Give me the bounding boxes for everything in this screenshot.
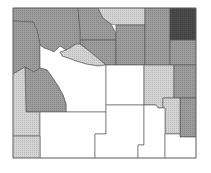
county-laramie — [165, 134, 196, 158]
county-texture — [174, 65, 196, 98]
wyoming-county-map — [0, 0, 211, 173]
county-texture — [145, 8, 170, 65]
county-texture — [13, 136, 40, 158]
county-texture — [13, 21, 40, 74]
county-texture — [116, 25, 145, 65]
county-texture — [170, 40, 196, 65]
county-texture — [170, 8, 196, 40]
county-texture — [180, 98, 196, 137]
county-natrona — [106, 65, 144, 105]
county-texture — [163, 98, 180, 134]
